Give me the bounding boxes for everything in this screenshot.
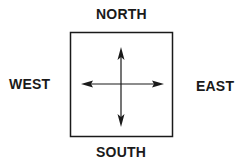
compass-diagram xyxy=(0,0,239,166)
cross-arrows-icon xyxy=(81,47,164,127)
